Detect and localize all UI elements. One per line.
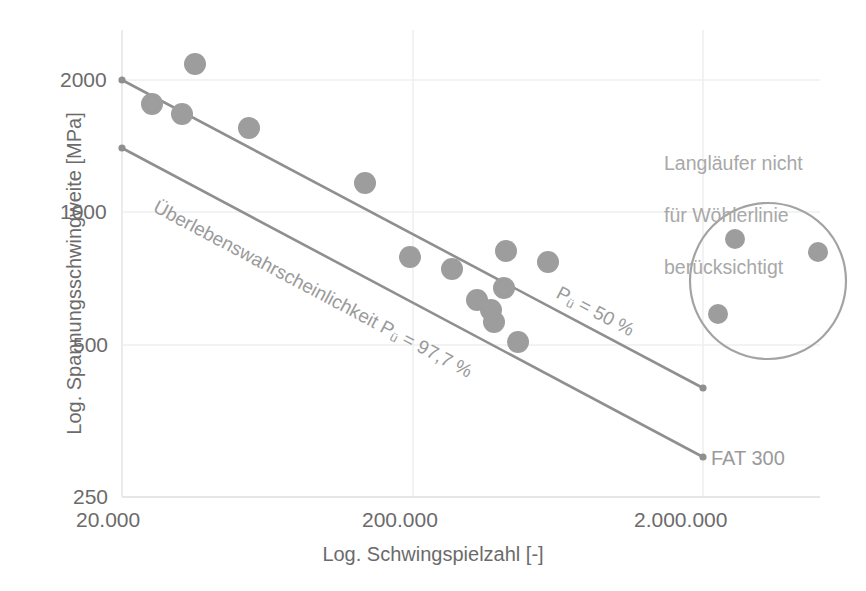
y-tick-label-250: 250	[73, 485, 108, 509]
data-point	[184, 53, 206, 75]
p977-line-end-marker	[699, 453, 706, 460]
data-point	[495, 240, 517, 262]
y-axis-title: Log. Spannungsschwingweite [MPa]	[63, 74, 86, 474]
x-tick-label-2000000: 2.000.000	[634, 508, 727, 532]
data-point	[354, 172, 376, 194]
p50-line-start-marker	[118, 76, 125, 83]
data-point	[441, 258, 463, 280]
data-point	[537, 251, 559, 273]
runout-note: Langläufer nicht für Wöhlerlinie berücks…	[664, 124, 803, 306]
x-tick-label-200000: 200.000	[362, 508, 438, 532]
data-point	[493, 277, 515, 299]
data-point	[507, 331, 529, 353]
data-point	[399, 246, 421, 268]
data-point	[238, 117, 260, 139]
runout-data-point	[708, 304, 728, 324]
fat-class-label: FAT 300	[711, 447, 785, 470]
data-point	[141, 93, 163, 115]
p50-line-end-marker	[699, 384, 706, 391]
wohler-chart: 2000 1000 500 250 20.000 200.000 2.000.0…	[0, 0, 866, 591]
runout-data-point	[808, 242, 828, 262]
data-point	[171, 103, 193, 125]
data-point	[483, 311, 505, 333]
p977-line-start-marker	[118, 144, 125, 151]
runout-note-line-2: für Wöhlerlinie	[664, 202, 803, 228]
runout-note-line-1: Langläufer nicht	[664, 150, 803, 176]
runout-note-line-3: berücksichtigt	[664, 254, 803, 280]
x-axis-title: Log. Schwingspielzahl [-]	[233, 543, 633, 566]
x-tick-label-20000: 20.000	[76, 508, 140, 532]
